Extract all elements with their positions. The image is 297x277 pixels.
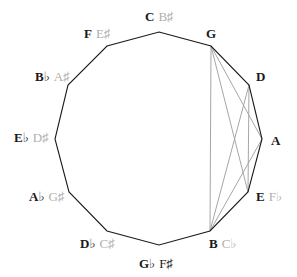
note-name: E [256, 189, 265, 204]
note-label-f: FE♯ [84, 27, 110, 40]
note-name: G♭ [139, 256, 155, 271]
enharmonic-name: D♯ [33, 130, 49, 145]
note-name: E♭ [14, 130, 29, 145]
enharmonic-name: E♯ [96, 26, 110, 41]
note-name: D♭ [80, 236, 96, 251]
note-name: B♭ [35, 69, 50, 84]
chord-line-g-e [211, 46, 248, 192]
enharmonic-name: B♯ [158, 9, 173, 24]
chord-line-a-b [210, 139, 262, 231]
note-label-e: EF♭ [256, 190, 282, 203]
note-name: A [271, 133, 280, 148]
chord-line-d-b [210, 85, 249, 231]
enharmonic-name: F♭ [269, 189, 282, 204]
pentatonic-chord-lines [210, 46, 262, 231]
note-label-bb: B♭A♯ [35, 70, 70, 83]
note-label-g: G [206, 27, 216, 40]
note-label-a: A [271, 134, 280, 147]
note-name: G [206, 26, 216, 41]
note-name: A♭ [29, 189, 45, 204]
note-label-c: CB♯ [145, 10, 174, 23]
note-name: B [209, 236, 218, 251]
chord-line-d-e [248, 85, 249, 192]
enharmonic-name: G♯ [49, 189, 65, 204]
enharmonic-name: C♭ [222, 236, 237, 251]
dodecagon-outline [55, 32, 262, 245]
note-name: D [256, 69, 265, 84]
note-label-d: D [256, 70, 265, 83]
note-name: C [145, 9, 154, 24]
note-label-eb: E♭D♯ [14, 131, 49, 144]
chord-line-g-b [210, 46, 211, 231]
note-label-db: D♭C♯ [80, 237, 115, 250]
enharmonic-name: C♯ [100, 236, 115, 251]
enharmonic-name: F♯ [159, 256, 173, 271]
enharmonic-name: A♯ [54, 69, 70, 84]
note-label-ab: A♭G♯ [29, 190, 64, 203]
note-label-gb: G♭F♯ [139, 257, 173, 270]
note-label-b: BC♭ [209, 237, 236, 250]
chord-line-g-a [211, 46, 262, 139]
note-name: F [84, 26, 92, 41]
